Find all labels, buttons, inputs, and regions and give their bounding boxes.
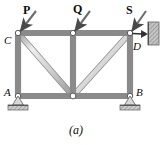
figure-caption: (a) [69,124,83,136]
joint-Mbot [70,93,76,99]
label-joint-A: A [4,87,11,98]
label-load-P: P [23,4,30,16]
label-joint-C: C [4,35,11,46]
load-arrow-S [132,11,146,31]
truss-members [18,33,130,96]
truss-figure: P Q S C D A B (a) [0,0,162,145]
member-D-Mbot [73,33,130,96]
label-joint-D: D [133,41,141,52]
label-joint-B: B [136,87,143,98]
member-C-Mbot [18,33,73,96]
label-load-S: S [126,4,133,16]
joint-Mtop [70,30,75,35]
reaction-arrow-D [132,32,146,36]
label-load-Q: Q [73,3,82,15]
joint-D [127,30,132,35]
joint-C [15,30,20,35]
